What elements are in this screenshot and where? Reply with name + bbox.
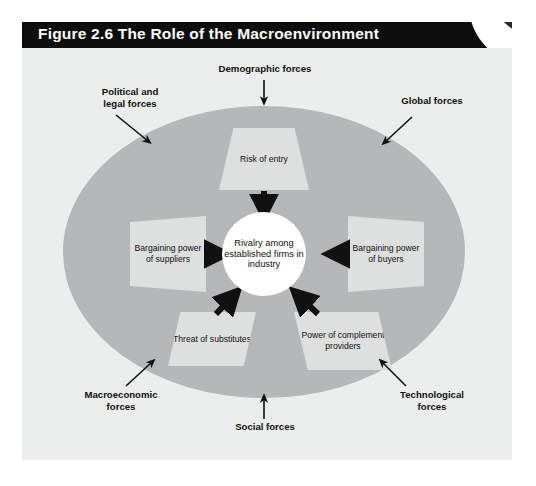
banner-swoosh-decoration <box>469 22 512 48</box>
macro-label-global-forces: Global forces <box>378 95 486 107</box>
force-card-threat-of-substitutes: Threat of substitutes <box>168 312 256 366</box>
force-card-bargaining-power-of-suppliers: Bargaining power of suppliers <box>130 216 206 292</box>
figure-page: Figure 2.6 The Role of the Macroenvironm… <box>0 0 536 486</box>
macro-label-social-forces: Social forces <box>204 421 326 433</box>
force-card-power-of-complement-providers: Power of complement providers <box>294 312 392 370</box>
figure-title: Figure 2.6 The Role of the Macroenvironm… <box>38 25 379 43</box>
center-node-rivalry: Rivalry among established firms in indus… <box>222 212 306 296</box>
force-card-risk-of-entry: Risk of entry <box>219 128 309 190</box>
macro-label-technological-forces: Technological forces <box>372 389 492 413</box>
force-card-bargaining-power-of-buyers: Bargaining power of buyers <box>348 216 424 292</box>
center-node-label: Rivalry among established firms in indus… <box>222 238 306 271</box>
macro-label-macroeconomic-forces: Macroeconomic forces <box>58 389 184 413</box>
macro-label-demographic-forces: Demographic forces <box>194 63 336 75</box>
figure-title-banner: Figure 2.6 The Role of the Macroenvironm… <box>22 22 512 48</box>
banner-swoosh-inner-decoration <box>486 22 512 40</box>
macro-label-political-and-legal-forces: Political and legal forces <box>76 86 184 110</box>
